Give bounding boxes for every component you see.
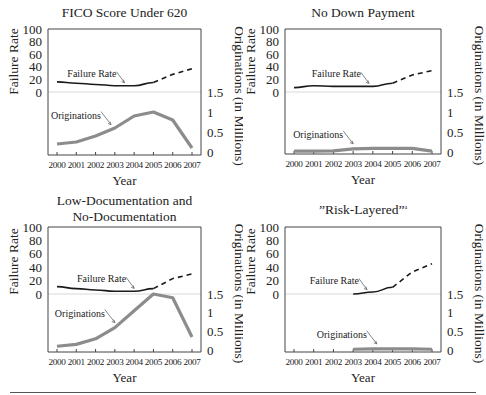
left-axis-label: Failure Rate [243,28,258,94]
x-tick-label: 2000 [48,160,66,170]
right-tick-label: 1 [207,305,214,320]
left-axis-label: Failure Rate [243,228,258,294]
failure-rate-projected-line [153,274,192,289]
left-tick-label: 0 [273,85,280,100]
right-tick-label: 0.5 [447,324,463,339]
x-tick-label: 2007 [183,160,201,170]
x-tick-label: 2007 [423,357,441,367]
right-tick-label: 1.5 [207,85,223,100]
failure-rate-line [57,82,153,86]
x-tick-label: 2001 [68,357,86,367]
chart-risk-layered: ”Risk-Layered”a2000200120022003200420052… [237,190,486,390]
failure-rate-annotation: Failure Rate [310,275,360,286]
originations-annotation: Originations [317,329,367,340]
plot-frame [48,227,201,352]
annotation-arrow-icon [117,72,125,83]
x-tick-label: 2004 [126,357,144,367]
x-tick-label: 2002 [325,159,343,169]
footnote-marker: a [404,204,407,210]
x-tick-label: 2007 [423,159,441,169]
chart-title: No-Documentation [72,209,176,224]
x-tick-label: 2000 [285,159,303,169]
x-tick-label: 2001 [68,160,86,170]
right-tick-label: 1 [447,305,454,320]
left-axis-label: Failure Rate [6,228,21,294]
right-tick-label: 1.5 [207,287,223,302]
originations-annotation: Originations [55,308,105,319]
right-tick-label: 0 [447,145,454,160]
x-tick-label: 2005 [145,357,163,367]
failure-rate-line [294,83,393,87]
right-tick-label: 0.5 [207,125,223,140]
right-tick-label: 1.5 [447,85,463,100]
failure-rate-annotation: Failure Rate [77,273,127,284]
right-axis-label: Originations (in Millions) [472,224,486,364]
x-tick-label: 2000 [285,357,303,367]
chart-low-no-documentation: Low-Documentation andNo-Documentation200… [0,190,243,390]
failure-rate-line [57,287,153,292]
right-tick-label: 1.5 [447,287,463,302]
failure-rate-projected-line [393,71,432,84]
failure-rate-annotation: Failure Rate [312,68,362,79]
left-tick-label: 0 [36,85,43,100]
originations-line [57,294,192,346]
annotation-arrow-icon [101,112,111,125]
left-tick-label: 0 [36,287,43,302]
originations-line [294,148,432,151]
x-axis-label: Year [351,370,376,385]
x-tick-label: 2003 [345,357,363,367]
failure-rate-line [353,287,392,294]
x-axis-label: Year [113,370,138,385]
chart-title: No Down Payment [311,5,415,20]
x-tick-label: 2003 [106,357,124,367]
x-tick-label: 2004 [126,160,144,170]
right-tick-label: 0.5 [207,324,223,339]
x-tick-label: 2001 [305,357,323,367]
originations-annotation: Originations [51,110,101,121]
figure: FICO Score Under 62020002001200220032004… [0,0,486,395]
x-tick-label: 2002 [325,357,343,367]
failure-rate-annotation: Failure Rate [67,68,117,79]
annotation-arrow-icon [361,72,369,83]
chart-title: ”Risk-Layered”a [319,202,407,217]
right-tick-label: 0 [207,145,214,160]
chart-fico-under-620: FICO Score Under 62020002001200220032004… [0,0,243,190]
x-tick-label: 2006 [404,159,422,169]
x-tick-label: 2002 [87,357,105,367]
annotation-arrow-icon [105,310,115,323]
x-tick-label: 2005 [145,160,163,170]
failure-rate-projected-line [393,264,432,287]
x-tick-label: 2005 [384,159,402,169]
x-tick-label: 2004 [364,357,382,367]
chart-no-down-payment: No Down Payment2000200120022003200420052… [237,0,486,190]
bottom-rule [10,392,476,393]
x-tick-label: 2006 [164,357,182,367]
annotation-arrow-icon [343,131,353,144]
x-tick-label: 2005 [384,357,402,367]
x-tick-label: 2001 [305,159,323,169]
failure-rate-projected-line [153,69,192,83]
x-tick-label: 2002 [87,160,105,170]
chart-title: FICO Score Under 620 [62,5,188,20]
left-axis-label: Failure Rate [6,28,21,94]
chart-title: Low-Documentation and [57,193,193,208]
x-axis-label: Year [113,173,138,188]
x-tick-label: 2006 [164,160,182,170]
right-axis-label: Originations (in Millions) [472,26,486,166]
originations-annotation: Originations [293,129,343,140]
x-tick-label: 2007 [183,357,201,367]
right-tick-label: 0 [207,343,214,358]
right-tick-label: 1 [207,105,214,120]
annotation-arrow-icon [367,331,377,344]
x-tick-label: 2006 [404,357,422,367]
right-tick-label: 0 [447,343,454,358]
annotation-arrow-icon [126,277,134,288]
right-tick-label: 1 [447,105,454,120]
x-tick-label: 2004 [364,159,382,169]
x-tick-label: 2000 [48,357,66,367]
left-tick-label: 0 [273,287,280,302]
right-tick-label: 0.5 [447,125,463,140]
annotation-arrow-icon [359,279,367,290]
x-tick-label: 2003 [345,159,363,169]
x-axis-label: Year [351,172,376,187]
